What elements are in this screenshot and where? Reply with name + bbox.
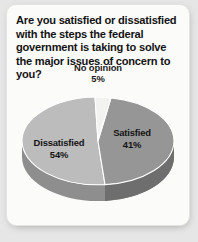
survey-result-card: Are you satisfied or dissatisfied with t…: [6, 4, 190, 226]
slice-label-dissatisfied: Dissatisfied 54%: [21, 137, 97, 160]
slice-label-satisfied: Satisfied 41%: [101, 127, 163, 150]
bottom-caption: [46, 236, 196, 242]
slice-label-dissatisfied-name: Dissatisfied: [34, 137, 85, 148]
page-root: Are you satisfied or dissatisfied with t…: [0, 0, 198, 242]
slice-label-no-opinion-name: No opinion: [74, 62, 122, 73]
slice-label-satisfied-name: Satisfied: [113, 127, 151, 138]
pie-chart: No opinion 5%: [7, 57, 189, 225]
slice-label-no-opinion: No opinion 5%: [7, 62, 189, 85]
slice-label-satisfied-percent: 41%: [101, 139, 163, 151]
slice-label-dissatisfied-percent: 54%: [21, 149, 97, 161]
slice-label-no-opinion-percent: 5%: [7, 73, 189, 84]
